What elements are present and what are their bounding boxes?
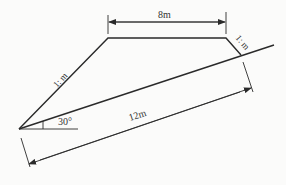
angle-label: 30° <box>58 116 72 127</box>
slope-length-dimension-line-back <box>29 92 240 164</box>
slope-length-label: 12m <box>127 107 148 123</box>
top-width-label: 8m <box>158 9 171 20</box>
embankment-diagram: 8m 1: m 1: m 12m 30° <box>0 0 286 185</box>
slope-length-extension-right <box>243 62 253 92</box>
slope-length-extension-left <box>21 138 30 167</box>
left-slope-label: 1: m <box>51 71 69 90</box>
